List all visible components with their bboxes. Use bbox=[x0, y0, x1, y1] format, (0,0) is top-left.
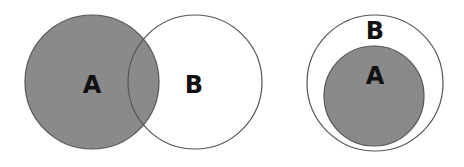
circle-a-inner bbox=[324, 46, 424, 146]
label-a: A bbox=[83, 71, 102, 99]
venn-diagrams: A B B A bbox=[0, 0, 464, 167]
label-b: B bbox=[366, 17, 384, 45]
subset-diagram: B A bbox=[307, 15, 443, 151]
label-a: A bbox=[366, 62, 385, 90]
label-b: B bbox=[185, 71, 203, 99]
overlapping-sets-diagram: A B bbox=[25, 15, 262, 149]
